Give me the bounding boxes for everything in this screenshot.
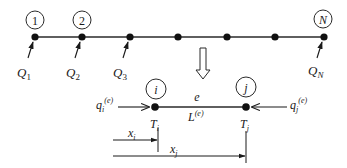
temp-label-Tj: Tj: [240, 117, 250, 133]
mesh-node: [126, 33, 133, 40]
node-number-N: N: [318, 13, 328, 27]
node-label-2: 2: [73, 11, 91, 29]
mesh-node: [78, 33, 85, 40]
mesh-node: [223, 33, 230, 40]
element-detail: i j e L(e) qi(e) qj(e) Ti Tj xi xj: [96, 77, 307, 163]
coord-label-xi: xi: [127, 126, 136, 142]
diagram-canvas: 1 2 N Q1 Q2 Q3 QN i: [0, 0, 347, 168]
fem-diagram: 1 2 N Q1 Q2 Q3 QN i: [0, 0, 347, 168]
node-label-j: j: [236, 77, 256, 97]
element-length-label: L(e): [187, 109, 204, 124]
load-label-QN: QN: [308, 63, 324, 80]
element-node-i: [151, 103, 159, 111]
element-label-e: e: [194, 90, 200, 104]
load-label-Q3: Q3: [113, 65, 127, 82]
node-number-1: 1: [32, 14, 38, 28]
node-label-N: N: [314, 10, 332, 28]
coord-label-xj: xj: [169, 142, 178, 158]
global-mesh: 1 2 N Q1 Q2 Q3 QN: [17, 10, 332, 82]
mesh-node: [31, 33, 38, 40]
load-arrow-icon: [123, 42, 128, 58]
node-label-1: 1: [26, 11, 44, 29]
mesh-node: [320, 33, 327, 40]
mesh-node: [174, 33, 181, 40]
load-arrow-icon: [317, 42, 322, 58]
node-number-2: 2: [79, 14, 85, 28]
load-label-Q1: Q1: [17, 65, 31, 82]
node-j-text: j: [242, 81, 248, 95]
load-label-Q2: Q2: [66, 65, 80, 82]
mesh-node: [271, 33, 278, 40]
hollow-down-arrow-icon: [196, 48, 210, 79]
load-arrow-icon: [28, 42, 33, 58]
load-arrow-icon: [75, 42, 80, 58]
element-node-j: [242, 103, 250, 111]
node-label-i: i: [146, 79, 166, 99]
flux-label-qj: qj(e): [290, 96, 307, 114]
node-i-text: i: [154, 83, 157, 97]
flux-label-qi: qi(e): [96, 96, 113, 114]
